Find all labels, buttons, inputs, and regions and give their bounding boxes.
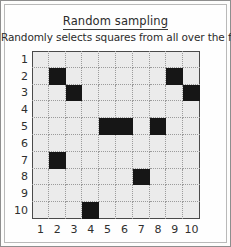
sampled-cell bbox=[49, 68, 66, 85]
sampled-cell bbox=[166, 68, 183, 85]
grid-cell bbox=[133, 68, 150, 85]
grid-cell bbox=[133, 118, 150, 135]
y-axis-tick-label: 4 bbox=[11, 101, 29, 118]
grid-cell bbox=[49, 85, 66, 102]
grid-cell bbox=[32, 68, 49, 85]
grid-cell bbox=[133, 101, 150, 118]
grid-cell bbox=[133, 51, 150, 68]
grid-cell bbox=[116, 101, 133, 118]
grid-cell bbox=[66, 51, 83, 68]
figure-title: Random sampling bbox=[1, 14, 230, 28]
x-axis-tick-label: 8 bbox=[150, 221, 167, 237]
grid-cell bbox=[166, 185, 183, 202]
grid-cell bbox=[166, 169, 183, 186]
grid-cell bbox=[150, 152, 167, 169]
grid-cell bbox=[150, 202, 167, 219]
grid-cell bbox=[116, 152, 133, 169]
grid-cell bbox=[32, 118, 49, 135]
grid-cell bbox=[150, 185, 167, 202]
grid-cell bbox=[116, 135, 133, 152]
y-axis-tick-label: 7 bbox=[11, 152, 29, 169]
sampled-cell bbox=[150, 118, 167, 135]
grid-cell bbox=[32, 101, 49, 118]
grid-cell bbox=[32, 169, 49, 186]
grid-cell bbox=[183, 68, 200, 85]
sampling-grid-plot bbox=[32, 51, 200, 219]
grid-cell bbox=[32, 185, 49, 202]
grid-cell bbox=[66, 101, 83, 118]
grid-cell bbox=[150, 169, 167, 186]
grid-cell bbox=[133, 85, 150, 102]
x-axis-tick-label: 9 bbox=[166, 221, 183, 237]
grid-cell bbox=[66, 202, 83, 219]
x-axis-tick-label: 6 bbox=[116, 221, 133, 237]
grid-cell bbox=[99, 202, 116, 219]
y-axis-tick-label: 2 bbox=[11, 68, 29, 85]
grid-cell bbox=[32, 135, 49, 152]
grid-cell bbox=[99, 185, 116, 202]
grid-cell bbox=[32, 202, 49, 219]
sampled-cell bbox=[66, 85, 83, 102]
grid-cell bbox=[183, 101, 200, 118]
grid-cell bbox=[66, 118, 83, 135]
grid-cell bbox=[99, 152, 116, 169]
x-axis-tick-labels: 1 2 3 4 5 6 7 8 9 10 bbox=[32, 221, 200, 237]
grid-cell bbox=[133, 185, 150, 202]
grid-cell bbox=[99, 101, 116, 118]
grid-cell bbox=[116, 51, 133, 68]
grid-cell bbox=[49, 51, 66, 68]
grid-cell bbox=[99, 68, 116, 85]
grid-cell bbox=[66, 169, 83, 186]
grid-cell bbox=[49, 101, 66, 118]
x-axis-tick-label: 4 bbox=[82, 221, 99, 237]
grid-cell bbox=[99, 169, 116, 186]
x-axis-tick-label: 5 bbox=[99, 221, 116, 237]
y-axis-tick-label: 5 bbox=[11, 118, 29, 135]
sampled-cell bbox=[49, 152, 66, 169]
y-axis-tick-label: 8 bbox=[11, 169, 29, 186]
grid-cell bbox=[166, 51, 183, 68]
figure-title-text: Random sampling bbox=[63, 14, 168, 30]
grid-cell bbox=[82, 118, 99, 135]
grid-cell bbox=[150, 135, 167, 152]
y-axis-tick-label: 1 bbox=[11, 51, 29, 68]
y-axis-tick-label: 6 bbox=[11, 135, 29, 152]
grid-cell bbox=[150, 85, 167, 102]
grid-cell bbox=[82, 185, 99, 202]
grid-cell bbox=[116, 85, 133, 102]
grid-cell bbox=[32, 85, 49, 102]
grid-cell bbox=[183, 169, 200, 186]
sampled-cell bbox=[133, 169, 150, 186]
grid-cell bbox=[133, 202, 150, 219]
x-axis-tick-label: 1 bbox=[32, 221, 49, 237]
sampled-cell bbox=[183, 85, 200, 102]
grid-cell bbox=[49, 169, 66, 186]
x-axis-tick-label: 2 bbox=[49, 221, 66, 237]
grid-cell bbox=[183, 135, 200, 152]
grid-cell bbox=[49, 118, 66, 135]
sampled-cell bbox=[99, 118, 116, 135]
y-axis-tick-labels: 1 2 3 4 5 6 7 8 9 10 bbox=[11, 51, 29, 219]
grid-cell bbox=[32, 152, 49, 169]
sampled-cell bbox=[116, 118, 133, 135]
grid-cell bbox=[116, 202, 133, 219]
grid-cell bbox=[82, 68, 99, 85]
grid-cell bbox=[183, 185, 200, 202]
grid-cell bbox=[32, 51, 49, 68]
grid-cell bbox=[183, 118, 200, 135]
x-axis-tick-label: 10 bbox=[183, 221, 200, 237]
figure-container: Random sampling Randomly selects squares… bbox=[0, 0, 231, 247]
grid-cell bbox=[166, 118, 183, 135]
grid-cell bbox=[183, 202, 200, 219]
grid-cell bbox=[66, 185, 83, 202]
grid-cell bbox=[183, 51, 200, 68]
grid-cell bbox=[66, 68, 83, 85]
grid-cell bbox=[116, 185, 133, 202]
grid-cell bbox=[166, 85, 183, 102]
figure-subtitle: Randomly selects squares from all over t… bbox=[1, 31, 230, 43]
grid-cell bbox=[82, 169, 99, 186]
grid-cell bbox=[99, 51, 116, 68]
grid-cell bbox=[133, 135, 150, 152]
grid-cell bbox=[150, 51, 167, 68]
grid-cell bbox=[99, 135, 116, 152]
